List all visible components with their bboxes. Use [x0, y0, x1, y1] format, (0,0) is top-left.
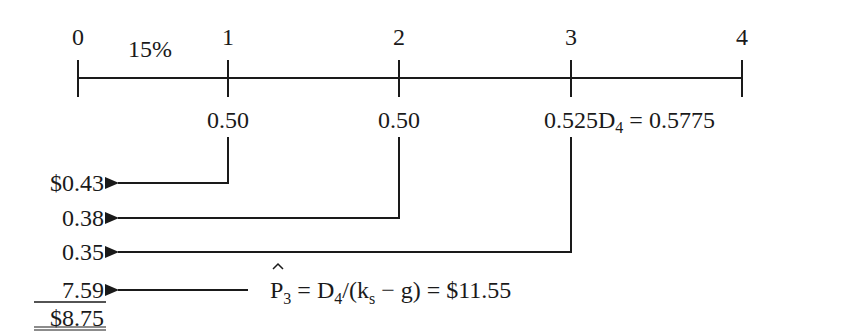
cash-flow-2: 0.50	[378, 107, 420, 133]
arrow-pv3	[118, 137, 571, 252]
period-label-0: 0	[72, 24, 84, 50]
cash-flow-timeline-diagram: 0 1 2 3 4 15% 0.50 0.50 0.525 D4 = 0.577…	[0, 0, 843, 332]
pv-3: 0.35	[62, 239, 104, 265]
discount-arrows	[118, 137, 571, 290]
period-label-1: 1	[222, 24, 234, 50]
discount-rate-label: 15%	[128, 36, 172, 62]
pv-1: $0.43	[50, 170, 104, 196]
dividend-4-label: D4 = 0.5775	[598, 107, 715, 136]
arrow-pv1	[118, 137, 228, 183]
cash-flow-3: 0.525	[544, 107, 598, 133]
period-label-4: 4	[736, 24, 748, 50]
timeline-axis	[78, 60, 742, 97]
hat-accent	[273, 264, 283, 269]
pv-terminal: 7.59	[62, 277, 104, 303]
cash-flow-1: 0.50	[207, 107, 249, 133]
period-label-2: 2	[393, 24, 405, 50]
pv-2: 0.38	[62, 205, 104, 231]
arrow-pv2	[118, 137, 399, 218]
period-label-3: 3	[565, 24, 577, 50]
terminal-value-formula: P3 = D4/(ks − g) = $11.55	[270, 277, 511, 307]
